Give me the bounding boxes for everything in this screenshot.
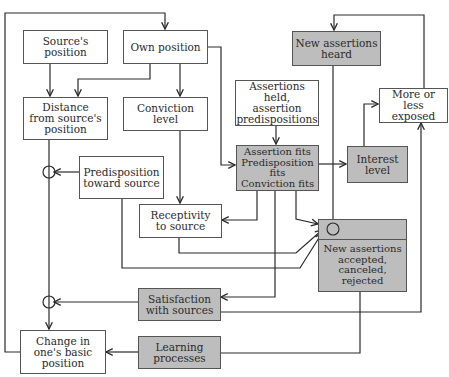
node-own-position: Own position [123,30,208,64]
node-satisfaction-with-sources: Satisfaction with sources [138,288,221,321]
node-sources-position: Source's position [23,30,108,64]
node-change-in-basic-position: Change in one's basic position [20,330,106,374]
node-conviction-level: Conviction level [123,97,208,131]
node-assertions-held: Assertions held, assertion predispositio… [235,80,319,126]
node-new-assertions-heard: New assertions heard [292,31,381,66]
node-interest-level: Interest level [347,146,408,183]
node-distance-from-source: Distance from source's position [23,97,108,140]
node-predisposition-toward-source: Predisposition toward source [79,156,164,199]
influence-flow-diagram: Source's position Own position Distance … [0,0,449,377]
accepted-header-strip [318,219,407,240]
node-fits: Assertion fits Predisposition fits Convi… [236,145,319,191]
node-receptivity-to-source: Receptivity to source [139,204,222,238]
node-more-or-less-exposed: More or less exposed [379,88,448,123]
node-learning-processes: Learning processes [138,336,221,369]
